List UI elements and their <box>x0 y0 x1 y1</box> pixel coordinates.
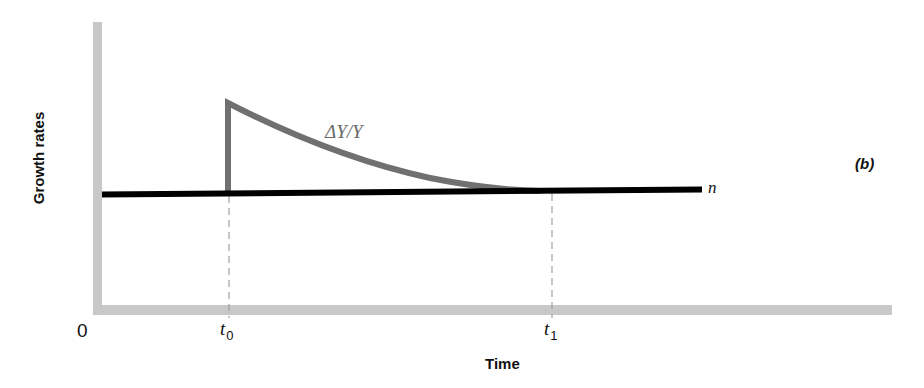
origin-label: 0 <box>77 320 88 342</box>
t0-base: t <box>220 318 225 339</box>
t1-tick-label: t1 <box>544 318 558 340</box>
n-line-label: n <box>708 178 717 198</box>
n-line <box>102 190 702 195</box>
panel-label: (b) <box>855 155 874 172</box>
y-axis <box>93 22 102 315</box>
x-axis <box>93 305 892 315</box>
chart-canvas <box>0 0 924 388</box>
output-growth-curve <box>228 103 540 194</box>
t1-base: t <box>544 318 549 339</box>
t0-tick-label: t0 <box>220 318 234 340</box>
t1-subscript: 1 <box>550 328 557 343</box>
y-axis-label: Growth rates <box>30 112 47 205</box>
curve-label: ΔY/Y <box>325 121 363 143</box>
x-axis-label: Time <box>485 355 520 372</box>
t0-subscript: 0 <box>226 328 233 343</box>
